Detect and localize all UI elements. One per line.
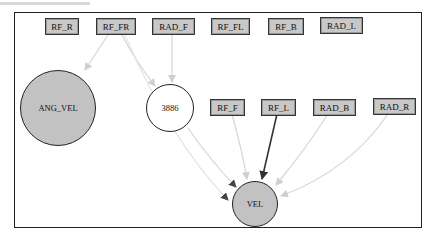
node-rf_b[interactable]: RF_B [268, 18, 304, 35]
node-rad_b[interactable]: RAD_B [313, 99, 356, 116]
node-rf_fr[interactable]: RF_FR [96, 18, 136, 35]
node-rad_f[interactable]: RAD_F [152, 18, 195, 35]
node-vel[interactable]: VEL [232, 181, 278, 227]
node-ang_vel[interactable]: ANG_VEL [20, 70, 96, 146]
node-rf_f[interactable]: RF_F [210, 99, 245, 116]
node-rad_r[interactable]: RAD_R [373, 98, 416, 115]
node-rad_l[interactable]: RAD_L [320, 17, 363, 34]
node-rf_fl[interactable]: RF_FL [211, 18, 250, 35]
node-rf_r[interactable]: RF_R [45, 18, 79, 35]
cropped-header-strip [0, 0, 100, 8]
node-3886[interactable]: 3886 [146, 84, 194, 132]
node-rf_l[interactable]: RF_L [261, 99, 296, 116]
